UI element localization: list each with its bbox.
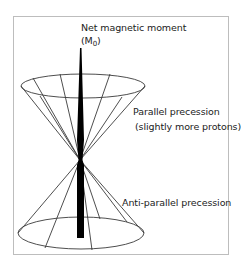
parallel-cone-rim	[21, 74, 145, 98]
antiparallel-precession-label: Anti-parallel precession	[122, 197, 231, 209]
net-magnetic-moment-label: Net magnetic moment	[81, 22, 186, 34]
m0-suffix: )	[97, 35, 101, 46]
parallel-precession-label: Parallel precession	[133, 106, 220, 118]
m0-prefix: (M	[81, 35, 93, 46]
parallel-precession-note: (slightly more protons)	[135, 121, 241, 133]
net-magnetic-moment-arrow	[77, 48, 84, 238]
m0-symbol-label: (M0)	[81, 35, 101, 50]
